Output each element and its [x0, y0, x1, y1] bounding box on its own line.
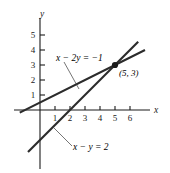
x-tick-label-2: 2 — [68, 113, 73, 123]
y-tick-labels: 1 2 3 4 5 — [31, 30, 36, 100]
x-axis-label: x — [153, 105, 159, 115]
y-tick-label-2: 2 — [31, 75, 36, 85]
y-tick-label-3: 3 — [31, 60, 36, 70]
x-tick-marks — [55, 106, 130, 110]
y-tick-label-5: 5 — [31, 30, 36, 40]
intersection-dot — [112, 62, 118, 68]
equation-label-upper: x − 2y = −1 — [56, 53, 103, 63]
y-tick-marks — [40, 35, 45, 95]
x-tick-label-3: 3 — [83, 113, 88, 123]
leader-line-lower-equation — [54, 128, 72, 146]
leader-line-upper-equation — [64, 62, 79, 89]
x-tick-label-1: 1 — [53, 113, 58, 123]
y-tick-label-1: 1 — [31, 90, 36, 100]
y-tick-label-4: 4 — [31, 45, 36, 55]
intersection-point-label: (5, 3) — [119, 68, 139, 78]
y-axis-label: y — [39, 9, 45, 19]
graph-figure: 1 2 3 4 5 6 1 2 3 4 5 y x x − 2y = −1 x … — [0, 0, 170, 173]
equation-label-lower: x − y = 2 — [73, 142, 109, 152]
x-tick-label-4: 4 — [98, 113, 103, 123]
x-tick-label-6: 6 — [128, 113, 133, 123]
x-tick-label-5: 5 — [113, 113, 118, 123]
